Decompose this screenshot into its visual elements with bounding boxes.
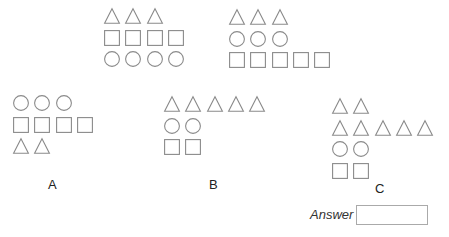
answer-input[interactable] bbox=[356, 205, 428, 225]
triangle-icon bbox=[272, 9, 288, 25]
square-icon bbox=[168, 30, 184, 46]
answer-label: Answer bbox=[310, 207, 352, 222]
square-icon bbox=[56, 117, 72, 133]
square-icon bbox=[272, 52, 288, 68]
square-icon bbox=[293, 52, 309, 68]
square-icon bbox=[104, 30, 120, 46]
square-icon bbox=[34, 117, 50, 133]
triangle-icon bbox=[164, 96, 180, 112]
square-icon bbox=[147, 30, 163, 46]
triangle-icon bbox=[125, 8, 141, 24]
square-icon bbox=[250, 52, 266, 68]
triangle-icon bbox=[185, 96, 201, 112]
circle-icon bbox=[125, 51, 141, 67]
square-icon bbox=[125, 30, 141, 46]
triangle-icon bbox=[250, 9, 266, 25]
circle-icon bbox=[185, 118, 201, 134]
triangle-icon bbox=[417, 120, 433, 136]
option-b-label: B bbox=[209, 177, 218, 192]
circle-icon bbox=[168, 51, 184, 67]
triangle-icon bbox=[13, 138, 29, 154]
square-icon bbox=[314, 52, 330, 68]
circle-icon bbox=[229, 31, 245, 47]
circle-icon bbox=[34, 95, 50, 111]
square-icon bbox=[353, 163, 369, 179]
square-icon bbox=[13, 117, 29, 133]
triangle-icon bbox=[229, 9, 245, 25]
triangle-icon bbox=[104, 8, 120, 24]
square-icon bbox=[185, 139, 201, 155]
option-c-label: C bbox=[375, 181, 384, 196]
triangle-icon bbox=[375, 120, 391, 136]
circle-icon bbox=[104, 51, 120, 67]
circle-icon bbox=[164, 118, 180, 134]
square-icon bbox=[164, 139, 180, 155]
square-icon bbox=[332, 163, 348, 179]
circle-icon bbox=[13, 95, 29, 111]
option-a-label: A bbox=[48, 177, 57, 192]
triangle-icon bbox=[34, 138, 50, 154]
triangle-icon bbox=[332, 98, 348, 114]
triangle-icon bbox=[207, 96, 223, 112]
triangle-icon bbox=[249, 96, 265, 112]
circle-icon bbox=[332, 141, 348, 157]
triangle-icon bbox=[353, 120, 369, 136]
triangle-icon bbox=[147, 8, 163, 24]
square-icon bbox=[77, 117, 93, 133]
circle-icon bbox=[272, 31, 288, 47]
circle-icon bbox=[56, 95, 72, 111]
circle-icon bbox=[147, 51, 163, 67]
square-icon bbox=[229, 52, 245, 68]
circle-icon bbox=[353, 141, 369, 157]
triangle-icon bbox=[228, 96, 244, 112]
triangle-icon bbox=[396, 120, 412, 136]
triangle-icon bbox=[332, 120, 348, 136]
triangle-icon bbox=[353, 98, 369, 114]
circle-icon bbox=[250, 31, 266, 47]
